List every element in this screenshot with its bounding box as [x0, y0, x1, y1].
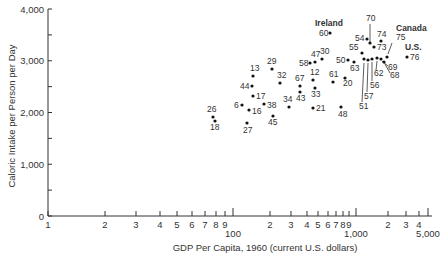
point-label: 34 [283, 94, 293, 104]
point-label: 54 [355, 33, 365, 43]
x-tick-label: 6 [325, 219, 330, 230]
point-label: 61 [329, 69, 339, 79]
x-tick-label: 5 [174, 219, 179, 230]
x-tick-label: 100 [225, 228, 241, 239]
point-label: 44 [240, 81, 250, 91]
data-point [287, 105, 290, 108]
point-label: 58 [299, 58, 309, 68]
point-label: 75 [396, 32, 406, 42]
point-label: 13 [250, 63, 260, 73]
y-tick-label: 3,000 [20, 55, 44, 66]
point-label: 45 [268, 117, 278, 127]
y-tick-label: 1,000 [20, 159, 44, 170]
x-tick-label: 6 [189, 219, 194, 230]
point-label: 32 [277, 70, 287, 80]
point-label: 50 [336, 55, 346, 65]
data-point [385, 55, 388, 58]
scatter-chart: 01,0002,0003,0004,0001234567891002345678… [0, 0, 443, 260]
point-labels: 2618616273845174413293234674358473012332… [207, 13, 427, 135]
data-point [270, 67, 273, 70]
data-point [240, 103, 243, 106]
x-tick-label: 2 [385, 219, 390, 230]
data-point [368, 41, 371, 44]
point-label: 51 [359, 101, 369, 111]
x-tick-label: 8 [213, 219, 218, 230]
country-annotation: Ireland [315, 18, 343, 28]
point-label: 63 [350, 63, 360, 73]
data-point [360, 51, 363, 54]
x-tick-label: 1 [45, 219, 50, 230]
data-point [311, 78, 314, 81]
point-label: 12 [310, 67, 320, 77]
point-label: 57 [364, 91, 374, 101]
data-point [311, 106, 314, 109]
point-label: 18 [210, 122, 220, 132]
country-annotation: U.S. [405, 42, 422, 52]
point-label: 62 [374, 68, 384, 78]
data-point [379, 57, 382, 60]
point-label: 33 [311, 89, 321, 99]
data-point [250, 84, 253, 87]
point-label: 6 [234, 100, 239, 110]
data-point [262, 102, 265, 105]
data-point [375, 56, 378, 59]
point-label: 43 [296, 93, 306, 103]
x-tick-label: 3 [403, 219, 408, 230]
data-point [278, 81, 281, 84]
point-label: 29 [267, 56, 277, 66]
data-point [362, 57, 365, 60]
x-tick-label: 5 [315, 219, 320, 230]
data-point [313, 60, 316, 63]
y-tick-label: 2,000 [20, 107, 44, 118]
y-tick-label: 0 [39, 211, 44, 222]
x-tick-label: 3 [288, 219, 293, 230]
leader-line [388, 43, 392, 54]
point-label: 73 [377, 42, 387, 52]
x-tick-label: 7 [202, 219, 207, 230]
point-label: 26 [207, 104, 217, 114]
x-tick-label: 5,000 [416, 228, 440, 239]
point-label: 30 [320, 46, 330, 56]
data-point [365, 37, 368, 40]
x-tick-label: 4 [157, 219, 162, 230]
data-point [320, 57, 323, 60]
data-point [370, 57, 373, 60]
data-point [328, 31, 331, 34]
data-point [366, 58, 369, 61]
y-tick-label: 4,000 [20, 4, 44, 15]
x-tick-label: 1,000 [344, 228, 368, 239]
point-label: 74 [377, 29, 387, 39]
point-label: 55 [349, 42, 359, 52]
leader-line [367, 63, 368, 92]
point-label: 38 [267, 100, 277, 110]
point-label: 67 [295, 73, 305, 83]
x-tick-label: 3 [133, 219, 138, 230]
country-annotation: Canada [396, 23, 427, 33]
x-tick-label: 2 [267, 219, 272, 230]
data-point [308, 61, 311, 64]
data-point [251, 74, 254, 77]
x-tick-label: 7 [333, 219, 338, 230]
data-point [251, 94, 254, 97]
point-label: 70 [366, 13, 376, 23]
data-point [372, 45, 375, 48]
data-point [382, 60, 385, 63]
x-axis-title: GDP Per Capita, 1960 (current U.S. dolla… [173, 242, 358, 253]
point-label: 48 [338, 109, 348, 119]
point-label: 21 [316, 103, 326, 113]
point-label: 56 [370, 80, 380, 90]
point-label: 76 [410, 52, 420, 62]
data-point [346, 58, 349, 61]
point-label: 27 [243, 125, 253, 135]
point-label: 60 [319, 28, 329, 38]
x-tick-label: 2 [102, 219, 107, 230]
data-point [405, 55, 408, 58]
point-label: 17 [256, 91, 266, 101]
point-label: 16 [252, 106, 262, 116]
data-point [298, 84, 301, 87]
axes [48, 9, 432, 216]
x-tick-label: 4 [304, 219, 309, 230]
point-label: 20 [343, 78, 353, 88]
data-point [331, 80, 334, 83]
point-label: 68 [390, 70, 400, 80]
